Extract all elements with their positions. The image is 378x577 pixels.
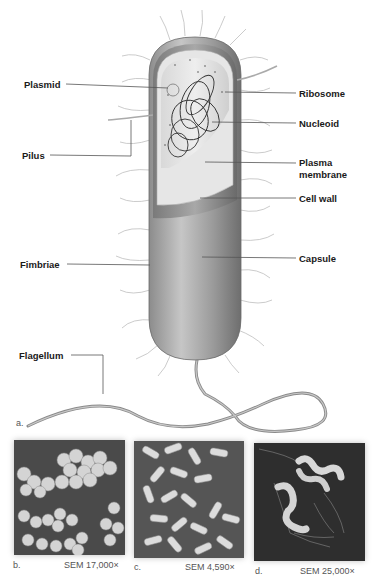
micrograph-spirilla xyxy=(254,443,365,561)
label-nucleoid: Nucleoid xyxy=(299,118,339,129)
micrograph-b-letter: b. xyxy=(13,560,21,570)
label-plasma-membrane-line2: membrane xyxy=(299,169,347,180)
micrograph-cocci xyxy=(14,440,125,555)
label-pilus: Pilus xyxy=(22,150,45,161)
micrograph-d-caption: SEM 25,000× xyxy=(300,566,355,576)
micrograph-bacilli xyxy=(134,441,244,558)
micrograph-d-letter: d. xyxy=(255,566,263,576)
micrograph-b-caption: SEM 17,000× xyxy=(64,560,119,570)
label-ribosome: Ribosome xyxy=(299,88,345,99)
label-cell-wall: Cell wall xyxy=(299,193,337,204)
pilus xyxy=(108,115,153,120)
panel-a-letter: a. xyxy=(16,418,24,428)
label-plasmid: Plasmid xyxy=(24,79,60,90)
label-capsule: Capsule xyxy=(299,253,336,264)
label-plasma-membrane-line1: Plasma xyxy=(299,157,332,168)
flagellum xyxy=(28,360,326,431)
micrograph-c-letter: c. xyxy=(134,562,141,572)
label-fimbriae: Fimbriae xyxy=(20,259,60,270)
label-flagellum: Flagellum xyxy=(19,350,63,361)
micrograph-c-caption: SEM 4,590× xyxy=(185,562,235,572)
